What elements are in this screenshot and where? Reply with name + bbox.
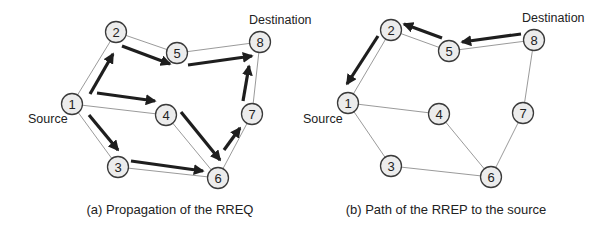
node-3: 3 [108,157,129,178]
node-label: 1 [68,97,75,112]
node-3: 3 [381,156,402,177]
network-nodes: 12345678 [338,20,545,188]
arrow-icon-1-to-4 [97,93,155,101]
source-label: Source [303,112,343,126]
node-label: 1 [344,96,351,111]
node-7: 7 [513,103,534,124]
arrow-icon-8-to-5 [462,34,521,42]
aodv-route-discovery-diagram: 12345678 Source Destination (a) Propagat… [0,0,611,229]
node-2: 2 [106,22,127,43]
node-label: 3 [387,159,394,174]
destination-label: Destination [249,13,312,27]
node-label: 5 [445,44,452,59]
node-2: 2 [381,20,402,41]
panel-caption: (b) Path of the RREP to the source [346,202,547,217]
node-label: 3 [114,160,121,175]
node-label: 4 [162,108,169,123]
node-8: 8 [524,30,545,51]
node-label: 4 [435,107,442,122]
destination-label: Destination [522,11,585,25]
panel-caption: (a) Propagation of the RREQ [87,202,254,217]
edge-1-4 [72,104,166,115]
edge-3-6 [118,167,218,178]
node-label: 7 [519,106,526,121]
arrow-icon-1-to-2 [90,54,113,94]
edge-1-3 [72,104,118,167]
edge-3-6 [391,166,491,177]
node-6: 6 [208,168,229,189]
node-label: 5 [173,46,180,61]
edge-5-8 [177,42,260,53]
node-4: 4 [156,105,177,126]
node-4: 4 [429,104,450,125]
network-nodes: 12345678 [62,22,271,189]
node-label: 2 [387,23,394,38]
panel-rreq-propagation: 12345678 Source Destination (a) Propagat… [28,13,312,217]
node-5: 5 [439,41,460,62]
arrow-icon-5-to-2 [404,24,442,38]
panel-rrep-path: 12345678 Source Destination (b) Path of … [303,11,585,217]
node-1: 1 [338,93,359,114]
arrow-icon-6-to-7 [224,128,240,150]
node-label: 8 [256,35,263,50]
node-label: 6 [214,171,221,186]
rrep-arrows [347,24,521,84]
node-label: 6 [487,170,494,185]
arrow-icon-5-to-8 [188,56,252,65]
arrow-icon-4-to-6 [181,112,220,160]
edge-4-6 [439,114,491,177]
node-6: 6 [481,167,502,188]
node-label: 8 [530,33,537,48]
edge-1-2 [348,30,391,103]
node-7: 7 [242,104,263,125]
edge-5-8 [449,40,534,51]
arrow-icon-2-to-5 [122,46,170,64]
node-label: 7 [248,107,255,122]
node-8: 8 [250,32,271,53]
node-label: 2 [112,25,119,40]
source-label: Source [28,112,68,126]
edge-1-3 [348,103,391,166]
node-5: 5 [167,43,188,64]
edge-1-4 [348,103,439,114]
arrow-icon-7-to-8 [243,66,249,101]
